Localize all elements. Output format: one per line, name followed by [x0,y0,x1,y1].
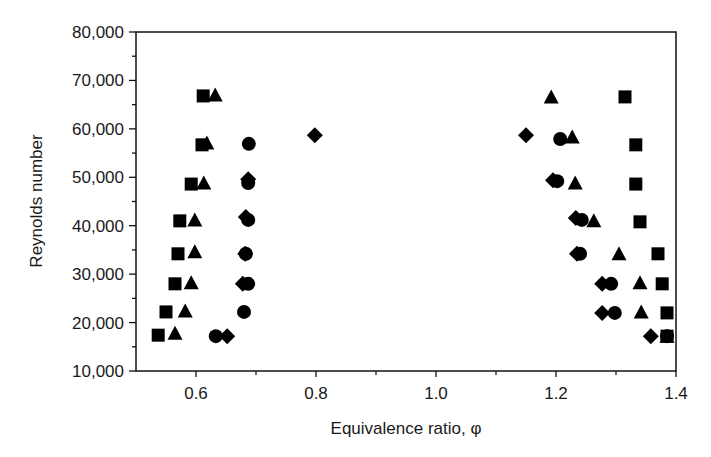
diamond-marker [643,328,659,344]
triangle-marker [187,212,202,226]
square-marker [173,214,186,227]
x-tick-label: 0.6 [184,384,208,403]
x-tick-label: 1.4 [664,384,688,403]
square-marker [152,329,165,342]
y-tick-label: 50,000 [72,168,124,187]
y-tick-label: 10,000 [72,362,124,381]
square-marker [197,89,210,102]
x-tick-label: 1.0 [424,384,448,403]
y-tick-label: 40,000 [72,217,124,236]
x-tick-label: 1.2 [544,384,568,403]
square-marker [160,305,173,318]
y-axis-ticks: 10,00020,00030,00040,00050,00060,00070,0… [72,23,136,381]
data-markers [152,87,675,344]
y-axis-title: Reynolds number [27,134,46,268]
square-marker [185,178,198,191]
circle-marker [242,137,256,151]
diamond-marker [237,246,253,262]
diamond-marker [307,127,323,143]
circle-marker [237,305,251,319]
square-marker [172,247,185,260]
square-marker [629,178,642,191]
scatter-chart: 0.60.81.01.21.4 10,00020,00030,00040,000… [0,0,711,457]
y-tick-label: 60,000 [72,120,124,139]
triangle-marker [168,326,183,340]
plot-frame [136,32,676,371]
triangle-marker [208,87,223,101]
triangle-marker [544,89,559,103]
x-tick-label: 0.8 [304,384,328,403]
x-axis-ticks: 0.60.81.01.21.4 [184,371,688,403]
triangle-marker [565,130,580,144]
circle-marker [660,329,674,343]
y-tick-label: 20,000 [72,314,124,333]
y-tick-label: 80,000 [72,23,124,42]
y-tick-label: 30,000 [72,265,124,284]
square-marker [619,90,632,103]
y-tick-label: 70,000 [72,71,124,90]
diamond-marker [518,127,534,143]
plot-area-border [136,32,676,371]
square-marker [169,277,182,290]
x-axis-title: Equivalence ratio, φ [331,419,482,438]
triangle-marker [612,246,627,260]
circle-marker [553,132,567,146]
triangle-marker [184,275,199,289]
triangle-marker [634,304,649,318]
diamond-marker [219,328,235,344]
triangle-marker [196,176,211,190]
square-marker [634,215,647,228]
triangle-marker [633,275,648,289]
triangle-marker [568,176,583,190]
square-marker [661,306,674,319]
square-marker [629,138,642,151]
square-marker [656,277,669,290]
triangle-marker [187,244,202,258]
square-marker [652,247,665,260]
diamond-marker [594,305,610,321]
triangle-marker [178,303,193,317]
